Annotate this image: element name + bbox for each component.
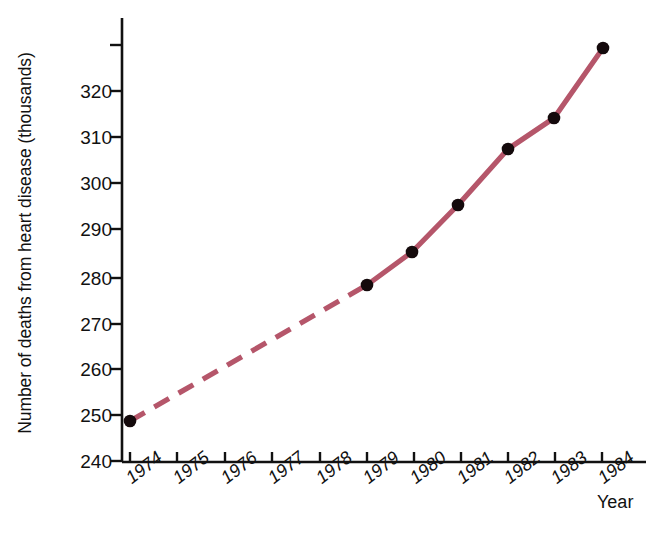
x-tick-label-1984: 1984 — [594, 447, 638, 488]
x-tick-label-1979: 1979 — [359, 447, 403, 488]
x-tick-label-1974: 1974 — [122, 447, 166, 488]
x-tick-label-1977: 1977 — [264, 447, 308, 488]
chart-container: Number of deaths from heart disease (tho… — [0, 0, 647, 533]
x-axis-title: Year — [597, 492, 633, 513]
x-tick-label-1983: 1983 — [547, 447, 591, 488]
x-tick-label-1980: 1980 — [406, 447, 450, 488]
x-tick-label-1982: 1982 — [500, 447, 544, 488]
x-tick-label-1978: 1978 — [312, 447, 356, 488]
x-tick-label-1975: 1975 — [169, 447, 213, 488]
x-tick-labels: 1974 1975 1976 1977 1978 1979 1980 1981 … — [0, 0, 647, 533]
x-tick-label-1981: 1981 — [453, 447, 497, 488]
x-tick-label-1976: 1976 — [217, 447, 261, 488]
